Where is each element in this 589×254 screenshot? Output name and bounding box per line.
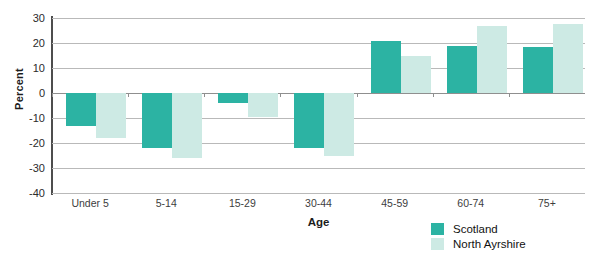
y-tick-0: 0: [1, 88, 45, 98]
bar-north-ayrshire: [172, 93, 202, 158]
y-tick--20: -20: [1, 138, 45, 148]
bar-scotland: [218, 93, 248, 103]
y-tick--10: -10: [1, 113, 45, 123]
bar-chart: Percent 3020100-10-20-30-40 Under 55-141…: [0, 0, 589, 254]
y-tick--30: -30: [1, 163, 45, 173]
y-tick--40: -40: [1, 188, 45, 198]
y-tick-20: 20: [1, 38, 45, 48]
bar-north-ayrshire: [401, 56, 431, 94]
x-tick-75-: 75+: [509, 197, 585, 213]
bar-group: [433, 18, 509, 193]
x-tick-60-74: 60-74: [433, 197, 509, 213]
y-axis-tick-labels: 3020100-10-20-30-40: [0, 18, 45, 193]
x-tick-under-5: Under 5: [52, 197, 128, 213]
bar-scotland: [523, 47, 553, 93]
y-tick-30: 30: [1, 13, 45, 23]
x-tick-mark: [357, 93, 358, 97]
bar-scotland: [447, 46, 477, 94]
bar-north-ayrshire: [477, 26, 507, 94]
bar-north-ayrshire: [248, 93, 278, 117]
y-tick-10: 10: [1, 63, 45, 73]
bar-scotland: [294, 93, 324, 148]
bar-group: [204, 18, 280, 193]
bar-scotland: [142, 93, 172, 148]
bar-group: [280, 18, 356, 193]
x-tick-5-14: 5-14: [128, 197, 204, 213]
legend-item-scotland: Scotland: [431, 221, 526, 236]
legend: Scotland North Ayrshire: [431, 221, 526, 251]
gridline--40: [52, 193, 585, 194]
x-tick-mark: [52, 93, 53, 97]
legend-label-scotland: Scotland: [453, 223, 498, 235]
x-tick-30-44: 30-44: [280, 197, 356, 213]
bar-groups: [52, 18, 585, 193]
x-tick-15-29: 15-29: [204, 197, 280, 213]
plot-area: [52, 18, 585, 193]
x-tick-mark: [128, 93, 129, 97]
bar-group: [128, 18, 204, 193]
legend-swatch-north-ayrshire: [431, 238, 444, 250]
legend-item-north-ayrshire: North Ayrshire: [431, 236, 526, 251]
bar-north-ayrshire: [96, 93, 126, 138]
bar-group: [509, 18, 585, 193]
x-tick-mark: [280, 93, 281, 97]
bar-group: [52, 18, 128, 193]
bar-north-ayrshire: [553, 24, 583, 93]
bar-scotland: [66, 93, 96, 126]
legend-swatch-scotland: [431, 223, 444, 235]
x-tick-mark: [433, 93, 434, 97]
x-tick-45-59: 45-59: [357, 197, 433, 213]
bar-group: [357, 18, 433, 193]
bar-scotland: [371, 41, 401, 94]
bar-north-ayrshire: [324, 93, 354, 156]
x-axis-tick-labels: Under 55-1415-2930-4445-5960-7475+: [52, 197, 585, 213]
legend-label-north-ayrshire: North Ayrshire: [453, 238, 526, 250]
x-tick-mark: [509, 93, 510, 97]
x-tick-mark: [204, 93, 205, 97]
